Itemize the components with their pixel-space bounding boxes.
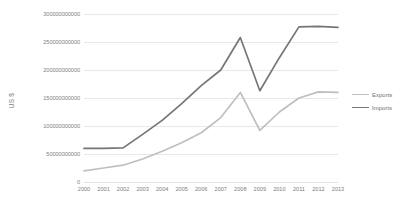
x-axis-tick-label: 2010 [273, 186, 285, 192]
x-axis-tick-labels: 2000200120022003200420052006200720082009… [84, 186, 338, 204]
plot-area [84, 14, 338, 182]
legend-swatch-icon [352, 107, 369, 108]
x-axis-tick-label: 2000 [78, 186, 90, 192]
y-axis-tick-labels: 0500000000001000000000001500000000002000… [18, 0, 80, 200]
gridline [84, 182, 338, 183]
y-axis-tick-label: 300000000000 [43, 11, 80, 17]
x-axis-tick-label: 2002 [117, 186, 129, 192]
x-axis-tick-label: 2011 [293, 186, 305, 192]
x-axis-tick-label: 2012 [312, 186, 324, 192]
series-layer [84, 14, 338, 182]
x-axis-tick-label: 2005 [175, 186, 187, 192]
chart-legend: ExportsImports [352, 88, 416, 114]
legend-label: Imports [372, 105, 392, 111]
legend-swatch-icon [352, 94, 369, 95]
y-axis-tick-label: 250000000000 [43, 39, 80, 45]
x-axis-tick-label: 2004 [156, 186, 168, 192]
series-line-exports [84, 92, 338, 171]
x-axis-tick-label: 2008 [234, 186, 246, 192]
legend-entry-exports[interactable]: Exports [352, 88, 416, 101]
x-axis-tick-label: 2001 [97, 186, 109, 192]
y-axis-tick-label: 200000000000 [43, 67, 80, 73]
y-axis-tick-label: 150000000000 [43, 95, 80, 101]
y-axis-tick-label: 0 [77, 179, 80, 185]
y-axis-title-label: US $ [8, 92, 15, 107]
x-axis-tick-label: 2007 [215, 186, 227, 192]
y-axis-tick-label: 50000000000 [46, 151, 80, 157]
legend-label: Exports [372, 92, 392, 98]
line-chart: US $ 05000000000010000000000015000000000… [0, 0, 418, 217]
series-line-imports [84, 26, 338, 148]
x-axis-tick-label: 2003 [136, 186, 148, 192]
x-axis-tick-label: 2013 [332, 186, 344, 192]
y-axis-tick-label: 100000000000 [43, 123, 80, 129]
legend-entry-imports[interactable]: Imports [352, 101, 416, 114]
x-axis-tick-label: 2009 [254, 186, 266, 192]
x-axis-tick-label: 2006 [195, 186, 207, 192]
